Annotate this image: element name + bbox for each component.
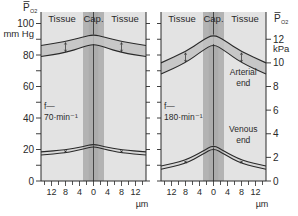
region-label-tissue: Tissue <box>111 13 139 24</box>
x-tick-label: 12 <box>130 187 140 197</box>
y-tick-label: 2 <box>273 152 279 163</box>
y-tick-label: 40 <box>23 113 35 124</box>
x-tick-label: 0 <box>91 187 96 197</box>
rate-label: f— <box>164 101 175 111</box>
chart-svg: 128404812µmTissueCap.Tissuef—70·min⁻¹020… <box>0 0 298 216</box>
x-tick-label: 0 <box>211 187 216 197</box>
y-axis-label: P <box>23 2 30 13</box>
venous-end-label: end <box>236 135 250 145</box>
y-unit-label: kPa <box>273 43 290 54</box>
y-tick-label: 4 <box>273 128 279 139</box>
region-label-capillary: Cap. <box>83 13 103 24</box>
x-tick-label: 4 <box>77 187 82 197</box>
x-tick-label: 12 <box>166 187 176 197</box>
y-tick-label: 60 <box>23 81 35 92</box>
y-axis-label-sub: O2 <box>30 8 37 14</box>
x-tick-label: 8 <box>239 187 244 197</box>
y-axis-label-sub: O2 <box>281 19 288 25</box>
x-tick-label: 8 <box>119 187 124 197</box>
arterial-end-label: Arterial <box>230 67 257 77</box>
y-tick-label: 10 <box>273 57 285 68</box>
x-tick-label: 8 <box>63 187 68 197</box>
region-label-tissue: Tissue <box>48 13 76 24</box>
region-label-tissue: Tissue <box>168 13 196 24</box>
y-tick-label: 8 <box>273 81 279 92</box>
panel-left: 128404812µmTissueCap.Tissuef—70·min⁻¹020… <box>3 2 150 210</box>
panel-right: 128404812µmTissueCap.Tissuef—180·min⁻¹Ar… <box>157 12 290 209</box>
region-label-tissue: Tissue <box>231 13 259 24</box>
rate-label: f— <box>44 101 55 111</box>
y-unit-label: mm Hg <box>3 28 34 39</box>
rate-value: 180·min⁻¹ <box>164 112 203 122</box>
arterial-end-label: end <box>236 78 250 88</box>
x-tick-label: 8 <box>183 187 188 197</box>
y-tick-label: 20 <box>23 144 35 155</box>
y-axis-label: P <box>274 13 281 24</box>
x-tick-label: 12 <box>46 187 56 197</box>
y-tick-label: 80 <box>23 50 35 61</box>
y-tick-label: 6 <box>273 105 279 116</box>
rate-value: 70·min⁻¹ <box>44 112 78 122</box>
y-tick-label: 0 <box>28 176 34 187</box>
x-axis-label: µm <box>136 199 149 209</box>
x-axis-label: µm <box>256 199 269 209</box>
x-tick-label: 12 <box>250 187 260 197</box>
venous-end-label: Venous <box>229 124 257 134</box>
x-tick-label: 4 <box>105 187 110 197</box>
x-tick-label: 4 <box>197 187 202 197</box>
x-tick-label: 4 <box>225 187 230 197</box>
y-tick-label: 0 <box>273 176 279 187</box>
region-label-capillary: Cap. <box>203 13 223 24</box>
